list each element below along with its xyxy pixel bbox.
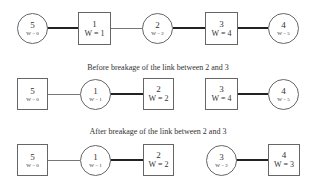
node-weight: W = 1 (85, 29, 105, 39)
caption-before: Before breakage of the link between 2 an… (0, 63, 316, 72)
caption-after: After breakage of the link between 2 and… (0, 127, 316, 136)
network-diagram: 5 W = 0 1 W = 1 2 W = 2 3 W = 4 4 W = 5 … (0, 0, 316, 186)
link-1-2 (110, 159, 143, 161)
node-weight: W = 2 (215, 162, 227, 169)
row3-node-3: 3 W = 2 (206, 145, 237, 176)
node-weight: W = 5 (277, 30, 289, 37)
node-id: 2 (156, 150, 161, 160)
row3-node-4: 4 W = 3 (268, 144, 300, 176)
node-weight: W = 2 (149, 94, 169, 104)
node-weight: W = 3 (274, 160, 294, 170)
row2-node-1: 1 W = 1 (80, 79, 111, 110)
row2-node-5: 5 W = 0 (17, 78, 48, 110)
row3-node-1: 1 W = 1 (80, 145, 111, 176)
node-id: 5 (30, 152, 35, 162)
node-id: 5 (30, 20, 35, 30)
node-weight: W = 1 (89, 96, 101, 103)
node-weight: W = 4 (212, 29, 232, 39)
row2-node-2: 2 W = 2 (143, 78, 174, 110)
node-id: 1 (93, 152, 98, 162)
node-id: 2 (156, 84, 161, 94)
row3-node-5: 5 W = 0 (17, 144, 48, 176)
node-weight: W = 4 (212, 94, 232, 104)
node-id: 1 (92, 19, 97, 29)
link-3-4 (238, 27, 268, 29)
row3-node-2: 2 W = 2 (143, 144, 174, 176)
node-id: 4 (281, 20, 286, 30)
node-weight: W = 0 (26, 162, 38, 169)
node-id: 3 (219, 84, 224, 94)
link-2-3 (173, 27, 205, 29)
node-id: 4 (282, 150, 287, 160)
row2-node-3: 3 W = 4 (205, 78, 238, 110)
link-3-4 (238, 93, 268, 95)
link-3-4 (236, 159, 269, 161)
link-5-1 (47, 27, 78, 29)
node-weight: W = 2 (151, 30, 163, 37)
node-id: 3 (219, 152, 224, 162)
row2-node-4: 4 W = 5 (268, 79, 299, 110)
row1-node-2: 2 W = 2 (142, 13, 173, 44)
link-5-1 (48, 160, 80, 161)
node-id: 3 (219, 19, 224, 29)
row1-node-4: 4 W = 5 (268, 13, 299, 44)
node-id: 2 (155, 20, 160, 30)
node-id: 4 (281, 86, 286, 96)
row1-node-3: 3 W = 4 (205, 12, 238, 45)
node-weight: W = 2 (149, 160, 169, 170)
node-weight: W = 0 (26, 30, 38, 37)
row1-node-1: 1 W = 1 (78, 12, 111, 45)
node-weight: W = 0 (26, 96, 38, 103)
node-id: 1 (93, 86, 98, 96)
row1-node-5: 5 W = 0 (17, 13, 48, 44)
node-weight: W = 1 (89, 162, 101, 169)
link-1-2 (111, 28, 143, 29)
link-5-1 (48, 94, 80, 95)
node-id: 5 (30, 86, 35, 96)
node-weight: W = 5 (277, 96, 289, 103)
link-1-2 (110, 93, 143, 95)
